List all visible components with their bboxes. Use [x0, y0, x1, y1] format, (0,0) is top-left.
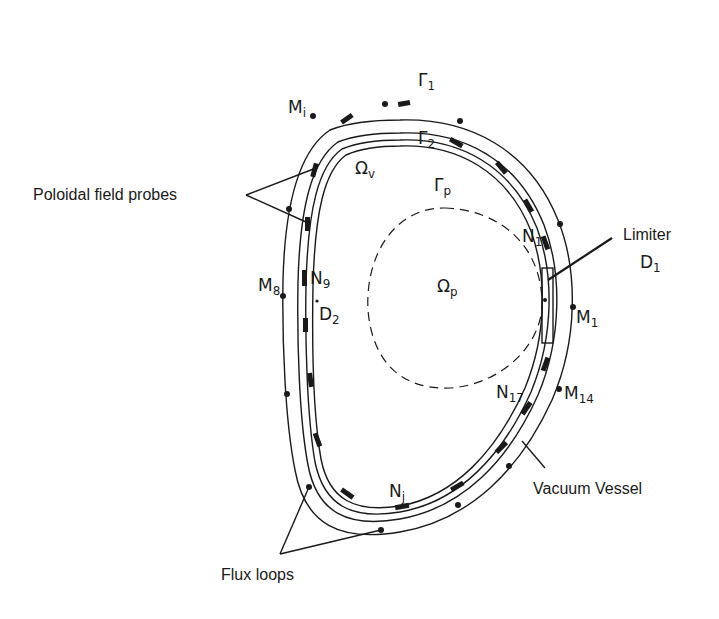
n17-label: N17	[496, 382, 524, 405]
flux-leader-2	[280, 530, 381, 554]
d2-label: D2	[319, 304, 340, 327]
probe-track-outer	[306, 140, 549, 514]
poloidal-field-probes-label: Poloidal field probes	[33, 186, 177, 204]
nj-label: Nj	[389, 481, 405, 504]
omega-p-label: Ωp	[437, 276, 458, 299]
n9-label: N9	[310, 268, 330, 291]
gammap-label: Γp	[434, 175, 451, 198]
m8-label: M8	[258, 275, 280, 298]
limiter-leader	[548, 238, 612, 280]
m14-label: M14	[564, 383, 594, 406]
gamma2-label: Γ2	[418, 128, 435, 151]
n1-label: N1	[522, 226, 542, 249]
vessel-outer-wall	[283, 120, 573, 535]
probes-leader-1	[246, 168, 316, 195]
vessel-leader	[522, 441, 545, 468]
m1-label: M1	[576, 307, 598, 330]
limiter-d1-label: D1	[640, 252, 661, 275]
gamma1-label: Γ1	[418, 70, 435, 93]
probe-track-inner	[313, 146, 543, 508]
mi-label: Mi	[288, 97, 306, 120]
omega-v-label: Ωv	[355, 158, 375, 181]
tokamak-diagram	[0, 0, 719, 619]
flux-leader-1	[280, 487, 309, 554]
vessel-inner-wall	[298, 133, 557, 522]
vacuum-vessel-label: Vacuum Vessel	[533, 480, 642, 498]
probes-leader-2	[246, 195, 306, 222]
flux-loops-label: Flux loops	[221, 566, 294, 584]
limiter-label: Limiter	[623, 226, 671, 244]
